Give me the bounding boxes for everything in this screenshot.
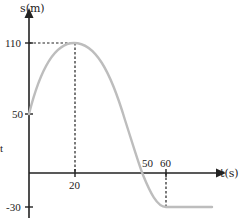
left-edge-fragment: t [0,142,3,154]
tick-label-x20: 20 [69,179,81,191]
tick-label-yneg30: -30 [6,201,21,213]
x-axis-label: t(s) [220,167,239,180]
position-time-chart: s(m) t(s) 110 50 -30 20 50 60 t [0,0,240,222]
tick-label-y110: 110 [5,37,22,49]
tick-label-y50: 50 [12,108,24,120]
tick-label-x50: 50 [142,157,154,169]
y-axis-label: s(m) [20,2,45,15]
position-curve [29,43,212,207]
tick-label-x60: 60 [160,157,172,169]
